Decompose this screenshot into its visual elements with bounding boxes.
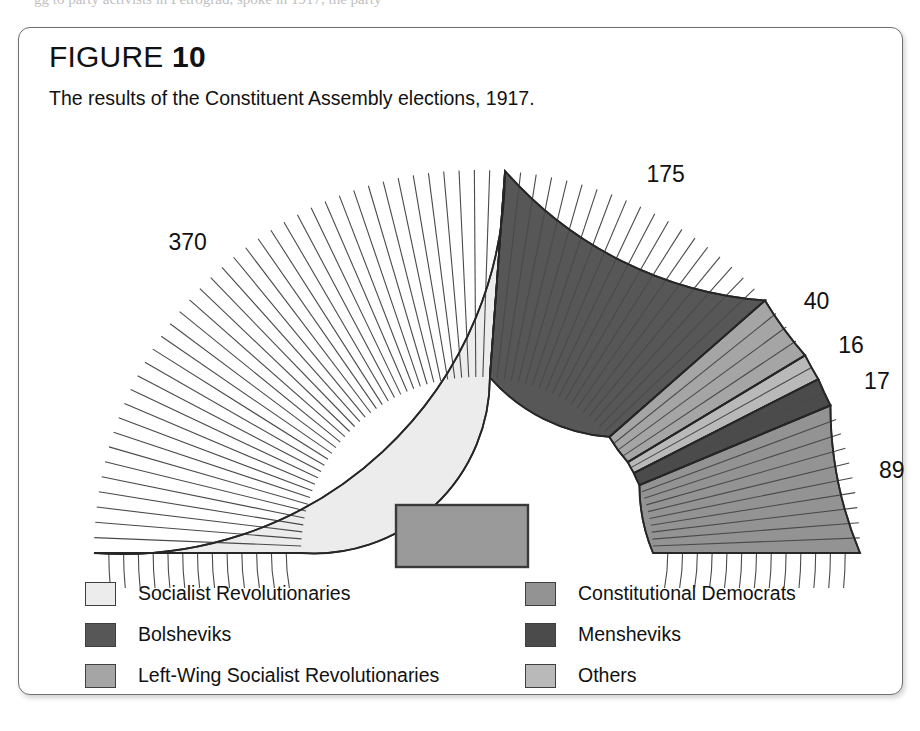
seat-divider-line	[234, 257, 366, 417]
legend-column-left: Socialist Revolutionaries Bolsheviks Lef…	[85, 573, 439, 696]
legend-swatch-bolsheviks	[85, 623, 116, 647]
seat-divider-line	[211, 278, 355, 427]
legend-swatch-left-wing-socialist-revolutionaries	[85, 664, 116, 688]
legend-label: Others	[578, 664, 637, 687]
hemicycle-svg	[19, 28, 904, 588]
legend-item: Mensheviks	[525, 614, 796, 655]
seat-segments	[94, 171, 860, 554]
seat-divider-line	[258, 239, 376, 409]
legend-item: Left-Wing Socialist Revolutionaries	[85, 655, 439, 696]
seat-divider-line	[119, 418, 313, 491]
hemicycle-chart: 37017540161789	[19, 28, 904, 588]
legend-swatch-socialist-revolutionaries	[85, 582, 116, 606]
legend-item: Socialist Revolutionaries	[85, 573, 439, 614]
legend-item: Bolsheviks	[85, 614, 439, 655]
seat-divider-line	[131, 389, 318, 477]
seat-divider-line	[222, 267, 360, 421]
value-label-89: 89	[879, 456, 905, 483]
seat-segment-outline	[94, 171, 505, 554]
legend-swatch-constitutional-democrats	[525, 582, 556, 606]
legend-column-right: Constitutional Democrats Mensheviks Othe…	[525, 573, 796, 696]
value-label-40: 40	[804, 288, 830, 315]
seat-divider-line	[109, 447, 308, 504]
legend-label: Mensheviks	[578, 623, 681, 646]
seat-divider-line	[137, 376, 320, 472]
page-text-remnant: gg to party activists in Petrograd, spok…	[34, 0, 854, 7]
seat-divider-line	[398, 178, 441, 381]
value-label-16: 16	[838, 331, 864, 358]
seat-divider-line	[413, 175, 447, 379]
seat-divider-line	[368, 186, 427, 384]
seat-divider-line	[339, 196, 413, 389]
seat-divider-line	[271, 230, 382, 404]
legend-label: Left-Wing Socialist Revolutionaries	[138, 664, 439, 687]
seat-divider-line	[428, 173, 454, 378]
legend-label: Socialist Revolutionaries	[138, 582, 350, 605]
value-label-17: 17	[864, 368, 890, 395]
seat-divider-line	[444, 171, 462, 377]
seat-divider-line	[170, 324, 336, 448]
seat-divider-line	[297, 215, 394, 398]
legend-item: Constitutional Democrats	[525, 573, 796, 614]
seat-divider-line	[153, 349, 328, 459]
legend-label: Bolsheviks	[138, 623, 231, 646]
seat-divider-line	[311, 208, 401, 395]
seat-divider-line	[200, 289, 350, 432]
legend-item: Others	[525, 655, 796, 696]
value-label-175: 175	[646, 161, 684, 188]
legend-label: Constitutional Democrats	[578, 582, 796, 605]
legend-swatch-others	[525, 664, 556, 688]
seat-divider-line	[161, 336, 332, 453]
seat-divider-line	[180, 312, 341, 442]
seat-divider-line	[246, 248, 371, 413]
value-label-370: 370	[169, 228, 207, 255]
speaker-podium	[396, 505, 528, 567]
figure-card: FIGURE 10 The results of the Constituent…	[18, 27, 903, 695]
seat-divider-line	[190, 300, 345, 437]
legend-swatch-mensheviks	[525, 623, 556, 647]
